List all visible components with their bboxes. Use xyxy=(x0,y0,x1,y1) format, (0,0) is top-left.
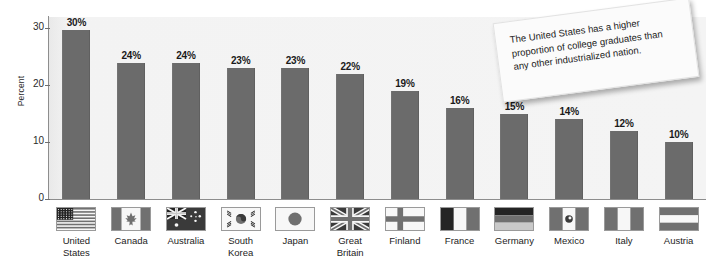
flag-cell xyxy=(542,206,597,231)
flag-canada-icon xyxy=(111,207,151,231)
bar-value-label: 10% xyxy=(669,129,688,140)
flag-cell xyxy=(378,206,433,231)
bar xyxy=(227,68,255,199)
category-label-line: Finland xyxy=(374,235,437,247)
bar-value-label: 12% xyxy=(614,118,633,129)
bar-value-label: 24% xyxy=(176,50,195,61)
category-label: SouthKorea xyxy=(209,235,272,258)
bar xyxy=(555,119,583,199)
flag-row xyxy=(49,206,706,232)
category-label: UnitedStates xyxy=(45,235,108,258)
category-label: Canada xyxy=(100,235,163,247)
flag-mexico-icon xyxy=(549,207,589,231)
bar-value-label: 22% xyxy=(340,61,359,72)
bar xyxy=(391,91,419,199)
category-label-line: Japan xyxy=(264,235,327,247)
flag-italy-icon xyxy=(604,207,644,231)
flag-south-korea-icon xyxy=(221,207,261,231)
category-label-line: Canada xyxy=(100,235,163,247)
category-label-line: Mexico xyxy=(538,235,601,247)
category-label: Italy xyxy=(593,235,656,247)
flag-cell xyxy=(651,206,706,231)
category-label: Austria xyxy=(647,235,709,247)
flag-japan-icon xyxy=(275,207,315,231)
bar xyxy=(172,63,200,200)
flag-united-states-icon xyxy=(56,207,96,231)
flag-cell xyxy=(432,206,487,231)
bar-value-label: 23% xyxy=(231,55,250,66)
flag-cell xyxy=(49,206,104,231)
bar xyxy=(446,108,474,199)
flag-france-icon xyxy=(440,207,480,231)
category-label-line: Austria xyxy=(647,235,709,247)
bar-group: 19% xyxy=(391,17,419,199)
category-label-line: South xyxy=(209,235,272,247)
category-label-line: Germany xyxy=(483,235,546,247)
y-tick-label: 20 xyxy=(22,78,44,89)
category-label-line: Italy xyxy=(593,235,656,247)
category-label-line: France xyxy=(428,235,491,247)
category-label: Mexico xyxy=(538,235,601,247)
flag-australia-icon xyxy=(166,207,206,231)
category-label-row: UnitedStatesCanadaAustraliaSouthKoreaJap… xyxy=(49,235,706,275)
bar xyxy=(610,131,638,199)
bar xyxy=(500,114,528,199)
x-axis-line xyxy=(48,199,706,200)
category-label: Finland xyxy=(374,235,437,247)
flag-finland-icon xyxy=(385,207,425,231)
bar xyxy=(281,68,309,199)
bar xyxy=(117,63,145,200)
bar-group: 24% xyxy=(117,17,145,199)
flag-cell xyxy=(159,206,214,231)
category-label: Japan xyxy=(264,235,327,247)
category-label-line: United xyxy=(45,235,108,247)
flag-cell xyxy=(213,206,268,231)
bar xyxy=(336,74,364,199)
category-label: Germany xyxy=(483,235,546,247)
bar-value-label: 19% xyxy=(395,78,414,89)
y-tick-label: 0 xyxy=(22,192,44,203)
bar xyxy=(62,30,90,199)
bar-group: 24% xyxy=(172,17,200,199)
category-label-line: States xyxy=(45,247,108,259)
flag-cell xyxy=(597,206,652,231)
bar-value-label: 15% xyxy=(505,101,524,112)
bar-group: 23% xyxy=(227,17,255,199)
bar xyxy=(665,142,693,199)
flag-cell xyxy=(487,206,542,231)
y-axis-title: Percent xyxy=(16,61,26,121)
bar-group: 23% xyxy=(281,17,309,199)
category-label-line: Britain xyxy=(319,247,382,259)
flag-great-britain-icon xyxy=(330,207,370,231)
category-label-line: Australia xyxy=(155,235,218,247)
bar-group: 16% xyxy=(446,17,474,199)
flag-germany-icon xyxy=(494,207,534,231)
flag-austria-icon xyxy=(659,207,699,231)
category-label-line: Korea xyxy=(209,247,272,259)
bar-group: 30% xyxy=(62,17,90,199)
bar-value-label: 24% xyxy=(121,50,140,61)
flag-cell xyxy=(323,206,378,231)
bar-chart: Percent 0102030 30%24%24%23%23%22%19%16%… xyxy=(0,0,709,278)
y-tick-label: 10 xyxy=(22,135,44,146)
category-label: France xyxy=(428,235,491,247)
flag-cell xyxy=(268,206,323,231)
category-label: GreatBritain xyxy=(319,235,382,258)
bar-group: 22% xyxy=(336,17,364,199)
flag-cell xyxy=(104,206,159,231)
y-tick-label: 30 xyxy=(22,21,44,32)
bar-value-label: 14% xyxy=(559,106,578,117)
bar-value-label: 16% xyxy=(450,95,469,106)
category-label-line: Great xyxy=(319,235,382,247)
bar-value-label: 30% xyxy=(67,17,86,28)
y-tick-mark xyxy=(45,199,50,200)
category-label: Australia xyxy=(155,235,218,247)
bar-value-label: 23% xyxy=(286,55,305,66)
callout-note-text: The United States has a higher proportio… xyxy=(509,11,681,73)
